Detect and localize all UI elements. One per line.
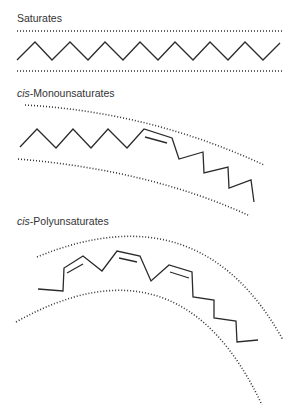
- polyunsaturates-group: [16, 236, 283, 405]
- mono-lower-boundary: [18, 159, 250, 216]
- mono-double-bond: [145, 137, 167, 143]
- saturates-chain: [17, 42, 280, 60]
- poly-double-bond-2: [119, 258, 137, 262]
- fatty-acid-diagram: [0, 0, 297, 411]
- poly-double-bond-3: [170, 272, 189, 278]
- mono-chain: [20, 129, 254, 202]
- poly-chain: [38, 251, 258, 342]
- saturates-group: [17, 31, 283, 71]
- poly-lower-boundary: [16, 290, 262, 405]
- mono-upper-boundary: [25, 105, 264, 165]
- poly-upper-boundary: [37, 236, 283, 340]
- monounsaturates-group: [18, 105, 264, 216]
